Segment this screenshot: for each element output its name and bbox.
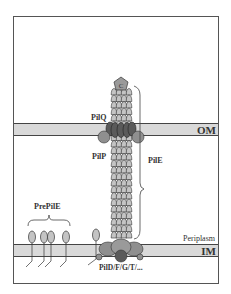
pilus-subunits: [111, 89, 132, 239]
pilp-left: [98, 131, 110, 143]
cap-label: C: [119, 82, 124, 90]
pilq-label: PilQ: [91, 113, 107, 122]
pilp-right: [132, 131, 144, 143]
prepile-label: PrePilE: [34, 202, 61, 211]
pilp-label: PilP: [92, 152, 106, 161]
om-label: OM: [197, 124, 217, 136]
pilq-secretin: [106, 122, 136, 138]
pile-label: PilE: [148, 156, 163, 165]
pilus-diagram: C PilQ PilP PilE OM IM Periplasm PrePilE…: [0, 0, 231, 294]
inner-complex-label: PilD/F/G/T/...: [99, 263, 143, 272]
periplasm-label: Periplasm: [183, 234, 216, 243]
im-label: IM: [201, 245, 216, 257]
